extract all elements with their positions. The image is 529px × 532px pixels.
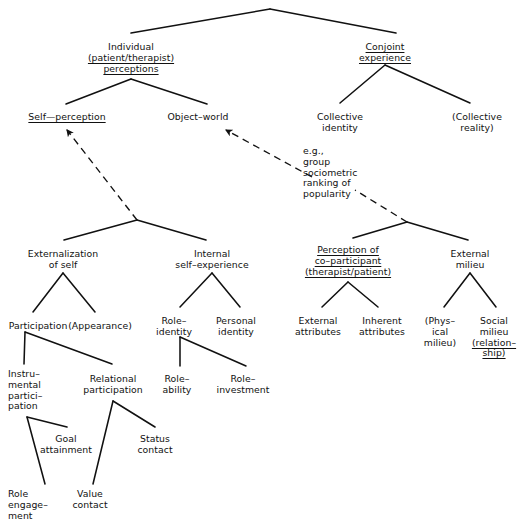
- node-self-perception: Self—perception: [28, 112, 105, 123]
- node-externalization: Externalizationof self: [28, 249, 98, 271]
- node-collective-reality: (Collectivereality): [452, 112, 502, 134]
- node-goal-attainment-line: attainment: [40, 445, 92, 456]
- node-collective-reality-line: reality): [452, 123, 502, 134]
- edge-coparticipant-apex-to-perception-coparticipant: [353, 222, 407, 238]
- node-eg-note-line: popularity: [303, 189, 357, 200]
- node-role-identity-line: identity: [156, 327, 192, 338]
- solid-edges-group: [24, 9, 496, 484]
- edge-participation-to-instrumental: [24, 332, 25, 364]
- edge-relational-to-value-contact: [93, 401, 113, 484]
- node-role-ability-line: ability: [163, 385, 192, 396]
- node-social-milieu: Socialmilieu(relation–ship): [472, 316, 516, 359]
- edge-internal-self-to-personal-identity: [212, 273, 240, 307]
- arrow-to-self-perception: [67, 130, 137, 220]
- node-perception-coparticipant-line: (therapist/patient): [305, 267, 391, 278]
- node-object-world: Object–world: [167, 112, 228, 123]
- node-conjoint: Conjointexperience: [359, 42, 411, 64]
- edge-external-milieu-to-social-milieu: [470, 273, 496, 307]
- node-relational: Relationalparticipation: [83, 374, 142, 396]
- edge-perception-coparticipant-to-inherent-attributes: [348, 282, 378, 307]
- node-internal-self-line: self–experience: [175, 260, 248, 271]
- node-personal-identity: Personalidentity: [216, 316, 256, 338]
- edge-external-milieu-to-physical-milieu: [444, 273, 470, 307]
- node-internal-self: Internalself–experience: [175, 249, 248, 271]
- edge-externalization-apex-to-internal-self: [137, 220, 206, 240]
- node-physical-milieu-line: ical: [424, 327, 456, 338]
- node-status-contact-line: contact: [137, 445, 172, 456]
- node-role-engagement-line: ment: [8, 511, 48, 522]
- edge-instrumental-to-goal-attainment: [27, 417, 67, 427]
- edge-externalization-to-appearance: [63, 273, 95, 312]
- edge-externalization-apex-to-externalization: [64, 220, 137, 240]
- node-role-ability: Role–ability: [163, 374, 192, 396]
- edge-conjoint-to-collective-identity: [340, 65, 385, 103]
- node-instrumental-line: mental: [8, 380, 42, 391]
- edge-internal-self-to-role-identity: [180, 273, 212, 307]
- edge-participation-to-relational: [25, 332, 112, 364]
- node-appearance: (Appearance): [68, 321, 132, 332]
- tree-diagram: Individual(patient/therapist)perceptions…: [0, 0, 529, 532]
- node-instrumental: Instru–mentalpartici–pation: [8, 369, 42, 412]
- node-self-perception-line: Self—perception: [28, 112, 105, 123]
- node-perception-coparticipant-line: co–participant: [305, 256, 391, 267]
- edge-root-to-conjoint: [270, 9, 396, 33]
- node-goal-attainment: Goalattainment: [40, 434, 92, 456]
- arrow-to-object-world-seg2: [226, 130, 312, 177]
- edge-relational-to-status-contact: [113, 401, 155, 427]
- edge-role-identity-to-role-investment: [180, 337, 246, 366]
- edge-root-to-individual: [131, 9, 270, 33]
- node-participation-line: Participation: [9, 321, 68, 332]
- node-external-attributes-line: attributes: [295, 327, 341, 338]
- edge-individual-to-self-perception: [66, 79, 131, 104]
- node-relational-line: participation: [83, 385, 142, 396]
- node-role-engagement-line: engage–: [8, 500, 48, 511]
- node-physical-milieu: (Phys–icalmilieu): [424, 316, 456, 348]
- node-external-milieu-line: milieu: [451, 260, 490, 271]
- node-value-contact-line: contact: [72, 500, 107, 511]
- node-instrumental-line: pation: [8, 401, 42, 412]
- node-eg-note-line: group: [303, 157, 357, 168]
- node-individual-line: (patient/therapist): [88, 53, 174, 64]
- edge-externalization-to-participation: [33, 273, 63, 312]
- node-inherent-attributes: Inherentattributes: [359, 316, 405, 338]
- edge-perception-coparticipant-to-external-attributes: [322, 282, 348, 307]
- node-value-contact: Valuecontact: [72, 489, 107, 511]
- arrow-to-object-world-seg1: [355, 190, 407, 222]
- node-externalization-line: of self: [28, 260, 98, 271]
- node-individual: Individual(patient/therapist)perceptions: [88, 42, 174, 74]
- node-physical-milieu-line: milieu): [424, 338, 456, 349]
- node-collective-identity: Collectiveidentity: [317, 112, 363, 134]
- node-social-milieu-line: milieu: [472, 327, 516, 338]
- node-collective-identity-line: identity: [317, 123, 363, 134]
- node-participation: Participation: [9, 321, 68, 332]
- edge-conjoint-to-collective-reality: [385, 65, 470, 103]
- node-role-investment-line: investment: [217, 385, 270, 396]
- node-individual-line: perceptions: [88, 64, 174, 75]
- node-inherent-attributes-line: attributes: [359, 327, 405, 338]
- node-status-contact: Statuscontact: [137, 434, 172, 456]
- edge-individual-to-object-world: [131, 79, 207, 104]
- node-external-milieu: Externalmilieu: [451, 249, 490, 271]
- node-role-identity: Role–identity: [156, 316, 192, 338]
- node-role-investment: Role–investment: [217, 374, 270, 396]
- node-role-engagement: Roleengage–ment: [8, 489, 48, 521]
- node-external-attributes: Externalattributes: [295, 316, 341, 338]
- node-conjoint-line: experience: [359, 53, 411, 64]
- node-social-milieu-line: ship): [472, 348, 516, 359]
- node-appearance-line: (Appearance): [68, 321, 132, 332]
- node-object-world-line: Object–world: [167, 112, 228, 123]
- node-perception-coparticipant: Perception ofco–participant(therapist/pa…: [305, 245, 391, 277]
- node-eg-note: e.g.,groupsociometricranking ofpopularit…: [303, 146, 357, 200]
- node-personal-identity-line: identity: [216, 327, 256, 338]
- edge-coparticipant-apex-to-external-milieu: [407, 222, 468, 240]
